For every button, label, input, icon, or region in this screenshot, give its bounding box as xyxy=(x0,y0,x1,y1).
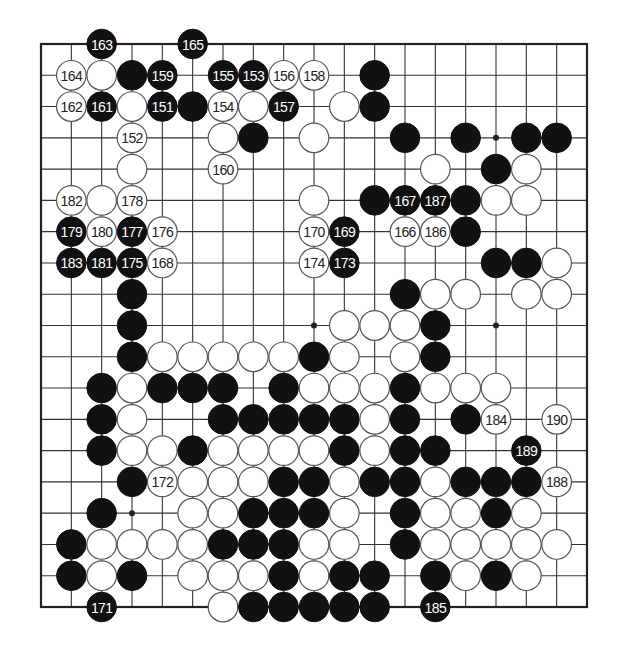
white-stone-icon xyxy=(360,405,390,435)
move-number: 182 xyxy=(61,193,83,209)
white-stone-icon xyxy=(330,342,360,372)
black-stone-icon xyxy=(269,405,299,435)
black-stone-icon xyxy=(360,60,390,90)
white-stone-icon xyxy=(299,123,329,153)
move-number: 157 xyxy=(273,99,295,115)
black-stone xyxy=(360,92,390,122)
black-stone xyxy=(117,561,147,591)
white-stone-icon xyxy=(239,467,269,497)
white-stone-icon xyxy=(117,405,147,435)
white-stone-icon xyxy=(330,498,360,528)
white-stone xyxy=(208,342,238,372)
black-stone-icon xyxy=(117,561,147,591)
black-stone: 181 xyxy=(87,248,117,278)
black-stone xyxy=(481,248,511,278)
white-stone: 178 xyxy=(117,186,147,216)
black-stone-icon xyxy=(178,436,208,466)
white-stone: 184 xyxy=(481,405,511,435)
white-stone-icon xyxy=(87,60,117,90)
white-stone xyxy=(148,530,178,560)
white-stone xyxy=(481,373,511,403)
white-stone-icon xyxy=(390,342,420,372)
white-stone-icon xyxy=(512,186,542,216)
white-stone-icon xyxy=(360,436,390,466)
move-number: 158 xyxy=(303,68,325,84)
white-stone-icon xyxy=(208,592,238,622)
white-stone-icon xyxy=(330,530,360,560)
white-stone-icon xyxy=(178,342,208,372)
white-stone xyxy=(330,467,360,497)
black-stone xyxy=(299,342,329,372)
black-stone xyxy=(239,123,269,153)
black-stone xyxy=(421,436,451,466)
black-stone-icon xyxy=(451,186,481,216)
white-stone xyxy=(178,561,208,591)
white-stone xyxy=(330,311,360,341)
star-point xyxy=(493,323,499,329)
black-stone-icon xyxy=(269,561,299,591)
black-stone xyxy=(330,561,360,591)
black-stone xyxy=(390,279,420,309)
white-stone xyxy=(451,373,481,403)
white-stone xyxy=(512,154,542,184)
white-stone xyxy=(208,498,238,528)
white-stone: 172 xyxy=(148,467,178,497)
move-number: 180 xyxy=(91,224,113,240)
black-stone xyxy=(239,530,269,560)
black-stone xyxy=(178,92,208,122)
black-stone xyxy=(481,154,511,184)
move-number: 172 xyxy=(152,474,174,490)
white-stone xyxy=(87,530,117,560)
black-stone-icon xyxy=(451,405,481,435)
black-stone xyxy=(269,498,299,528)
white-stone: 164 xyxy=(57,60,87,90)
move-number: 161 xyxy=(91,99,113,115)
white-stone: 154 xyxy=(208,92,238,122)
black-stone-icon xyxy=(481,498,511,528)
white-stone-icon xyxy=(451,530,481,560)
black-stone xyxy=(299,498,329,528)
black-stone: 165 xyxy=(178,29,208,59)
black-stone-icon xyxy=(481,248,511,278)
white-stone-icon xyxy=(451,498,481,528)
black-stone: 163 xyxy=(87,29,117,59)
white-stone-icon xyxy=(178,498,208,528)
white-stone: 190 xyxy=(542,405,572,435)
white-stone-icon xyxy=(117,92,147,122)
black-stone: 153 xyxy=(239,60,269,90)
black-stone-icon xyxy=(208,405,238,435)
black-stone xyxy=(451,186,481,216)
white-stone xyxy=(148,436,178,466)
move-number: 187 xyxy=(425,193,447,209)
black-stone-icon xyxy=(87,498,117,528)
white-stone-icon xyxy=(390,311,420,341)
white-stone-icon xyxy=(148,436,178,466)
white-stone xyxy=(542,248,572,278)
black-stone-icon xyxy=(360,592,390,622)
black-stone: 179 xyxy=(57,217,87,247)
white-stone-icon xyxy=(360,373,390,403)
move-number: 177 xyxy=(121,224,143,240)
white-stone-icon xyxy=(512,154,542,184)
move-number: 171 xyxy=(91,600,113,616)
black-stone: 185 xyxy=(421,592,451,622)
white-stone xyxy=(117,436,147,466)
white-stone xyxy=(208,592,238,622)
white-stone: 186 xyxy=(421,217,451,247)
black-stone-icon xyxy=(360,92,390,122)
black-stone xyxy=(390,498,420,528)
white-stone-icon xyxy=(239,92,269,122)
star-point xyxy=(129,510,135,516)
white-stone xyxy=(512,279,542,309)
black-stone-icon xyxy=(390,279,420,309)
black-stone xyxy=(512,123,542,153)
move-number: 173 xyxy=(334,255,356,271)
white-stone-icon xyxy=(148,342,178,372)
move-number: 190 xyxy=(546,412,568,428)
black-stone xyxy=(481,498,511,528)
white-stone-icon xyxy=(239,561,269,591)
black-stone xyxy=(390,436,420,466)
white-stone xyxy=(330,530,360,560)
black-stone-icon xyxy=(117,279,147,309)
black-stone xyxy=(390,467,420,497)
